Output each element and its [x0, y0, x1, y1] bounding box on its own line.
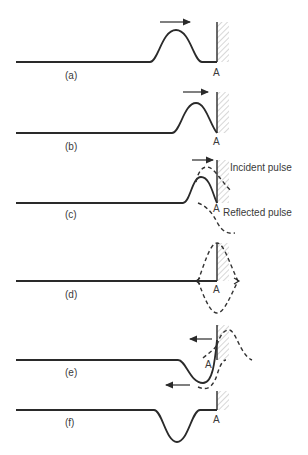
panel-label: (a): [65, 70, 77, 81]
incident-pulse: [16, 30, 217, 62]
panel-label: (e): [65, 367, 77, 378]
panel-label: (d): [65, 289, 77, 300]
panel-label: (b): [65, 141, 77, 152]
panel-c: Incident pulse Reflected pulse (c) A: [16, 160, 292, 233]
point-a-label: A: [213, 136, 220, 147]
superposed-pulse: [16, 177, 217, 203]
point-a-label: A: [213, 203, 220, 214]
wall-hatching: [217, 391, 229, 410]
panel-d: (d) A: [16, 243, 239, 313]
incident-pulse-label: Incident pulse: [230, 162, 292, 173]
point-a-label: A: [205, 359, 212, 370]
panel-f: (f) A: [16, 391, 229, 442]
panel-a: (a) A: [16, 22, 229, 81]
wall-hatching: [217, 92, 229, 133]
point-a-label: A: [213, 67, 220, 78]
panel-label: (f): [65, 417, 74, 428]
panel-e: (e) A: [16, 325, 252, 389]
superposed-pulse: [16, 340, 217, 383]
wall-hatching: [217, 325, 229, 360]
panel-label: (c): [65, 209, 77, 220]
point-a-label: A: [213, 284, 220, 295]
incident-pulse: [16, 103, 217, 133]
wall-hatching: [217, 22, 229, 62]
reflected-pulse-inverted: [16, 410, 217, 442]
reflected-pulse-label: Reflected pulse: [223, 207, 292, 218]
pulse-reflection-diagram: (a) A (b) A Incident pulse Reflected pul…: [0, 0, 308, 455]
panel-b: (b) A: [16, 92, 229, 152]
point-a-label: A: [213, 414, 220, 425]
arrowhead-icon: [234, 278, 239, 284]
